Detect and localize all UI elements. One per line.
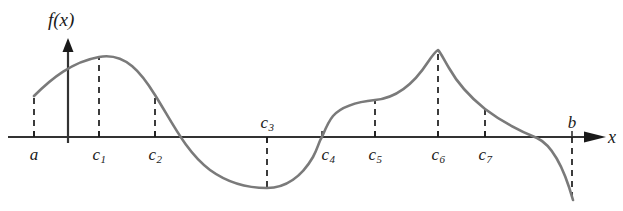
x-axis-label: x (608, 128, 616, 146)
tick-label-a: a (30, 146, 39, 163)
x-axis-arrowhead (584, 132, 606, 143)
tick-label-c3: c3 (260, 114, 273, 131)
tick-label-b: b (568, 114, 577, 131)
function-curve (34, 50, 573, 200)
function-graph-figure: f(x) x a c1 c2 c3 c4 c5 c6 c7 b (0, 0, 623, 211)
graph-canvas (0, 0, 623, 211)
tick-label-c1: c1 (92, 146, 105, 163)
y-axis-arrowhead (63, 38, 74, 52)
tick-label-c4: c4 (321, 146, 334, 163)
y-axis-label: f(x) (48, 10, 74, 29)
tick-label-c6: c6 (431, 146, 444, 163)
tick-label-c5: c5 (368, 146, 381, 163)
dashed-guide-lines (34, 50, 572, 200)
y-axis (63, 38, 74, 143)
tick-label-c7: c7 (478, 146, 491, 163)
x-axis (8, 132, 606, 143)
tick-label-c2: c2 (148, 146, 161, 163)
